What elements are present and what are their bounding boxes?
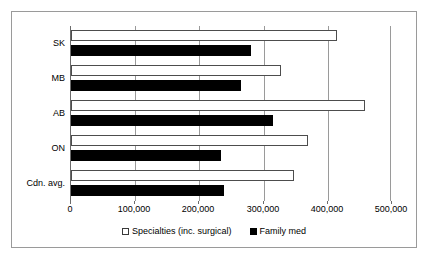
x-tick-label-100000: 100,000 <box>118 204 151 215</box>
x-tick-label-400000: 400,000 <box>311 204 344 215</box>
bar-group-ab: AB <box>71 96 390 131</box>
bar-on-family-med <box>71 150 221 161</box>
bar-cdn-avg-specialties <box>71 170 294 181</box>
bar-group-mb: MB <box>71 61 390 96</box>
category-label-cdn-avg: Cdn. avg. <box>0 178 65 188</box>
x-tick-label-200000: 200,000 <box>182 204 215 215</box>
chart-legend: Specialties (inc. surgical) Family med <box>12 226 416 236</box>
x-tick-label-0: 0 <box>67 204 72 215</box>
x-tick-label-300000: 300,000 <box>247 204 280 215</box>
bar-group-cdn-avg: Cdn. avg. <box>71 166 390 201</box>
plot-area: SK MB AB ON Cdn. avg. <box>70 26 391 201</box>
bar-group-on: ON <box>71 131 390 166</box>
bar-ab-specialties <box>71 100 365 111</box>
category-label-mb: MB <box>0 73 65 83</box>
category-label-on: ON <box>0 143 65 153</box>
legend-entry-specialties: Specialties (inc. surgical) <box>122 226 232 236</box>
bar-mb-family-med <box>71 80 241 91</box>
bar-sk-specialties <box>71 30 337 41</box>
bar-group-sk: SK <box>71 26 390 61</box>
bar-on-specialties <box>71 135 308 146</box>
bar-cdn-avg-family-med <box>71 185 224 196</box>
bar-sk-family-med <box>71 45 251 56</box>
category-label-ab: AB <box>0 108 65 118</box>
bar-ab-family-med <box>71 115 273 126</box>
legend-label-specialties: Specialties (inc. surgical) <box>132 226 232 236</box>
filled-square-icon <box>250 228 257 235</box>
open-square-icon <box>122 228 129 235</box>
x-tick-label-500000: 500,000 <box>375 204 408 215</box>
bar-mb-specialties <box>71 65 281 76</box>
legend-label-family-med: Family med <box>260 226 307 236</box>
legend-entry-family-med: Family med <box>250 226 307 236</box>
chart-frame: SK MB AB ON Cdn. avg. <box>11 11 417 248</box>
category-label-sk: SK <box>0 38 65 48</box>
x-axis: 0 100,000 200,000 300,000 400,000 500,00… <box>70 204 391 218</box>
